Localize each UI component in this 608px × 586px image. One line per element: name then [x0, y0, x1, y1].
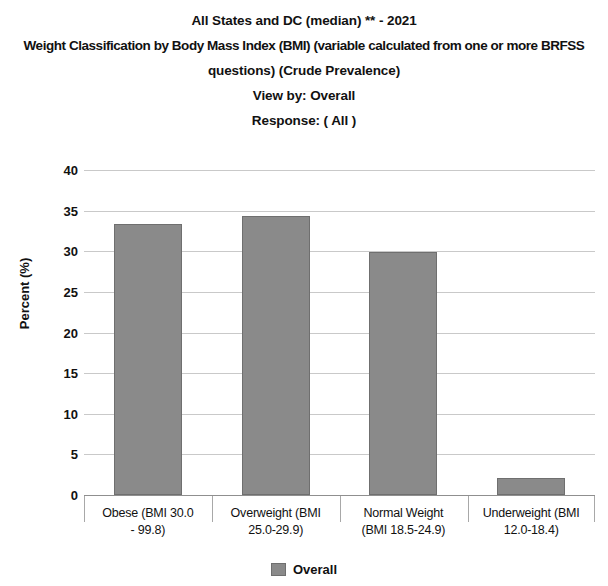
- legend-swatch-icon: [271, 563, 286, 576]
- category-label-line: Underweight (BMI: [467, 505, 595, 522]
- y-axis-tick-label: 0: [30, 488, 78, 503]
- y-axis-tick-label: 40: [30, 163, 78, 178]
- category-label: Underweight (BMI12.0-18.4): [467, 505, 595, 539]
- y-axis-tick-label: 10: [30, 406, 78, 421]
- bar-chart: All States and DC (median) ** - 2021 Wei…: [0, 0, 608, 586]
- y-axis-tick-label: 5: [30, 447, 78, 462]
- category-label: Normal Weight(BMI 18.5-24.9): [340, 505, 468, 539]
- category-label: Overweight (BMI25.0-29.9): [212, 505, 340, 539]
- legend-label: Overall: [293, 562, 337, 577]
- plot-area: Percent (%) 0510152025303540 Obese (BMI …: [0, 0, 608, 586]
- y-axis-tick-label: 35: [30, 203, 78, 218]
- category-label: Obese (BMI 30.0- 99.8): [84, 505, 212, 539]
- chart-legend: Overall: [0, 562, 608, 577]
- gridline: [84, 170, 595, 171]
- bar[interactable]: [114, 224, 182, 495]
- category-label-line: (BMI 18.5-24.9): [340, 522, 468, 539]
- y-axis-tick-label: 15: [30, 366, 78, 381]
- category-label-line: Overweight (BMI: [212, 505, 340, 522]
- gridline: [84, 211, 595, 212]
- category-label-line: Obese (BMI 30.0: [84, 505, 212, 522]
- bar[interactable]: [369, 252, 437, 495]
- category-label-line: 25.0-29.9): [212, 522, 340, 539]
- category-label-line: - 99.8): [84, 522, 212, 539]
- category-label-line: Normal Weight: [340, 505, 468, 522]
- category-label-line: 12.0-18.4): [467, 522, 595, 539]
- y-axis-tick-label: 20: [30, 325, 78, 340]
- y-axis-tick-label: 25: [30, 284, 78, 299]
- y-axis-tick-labels: 0510152025303540: [22, 0, 78, 586]
- bar[interactable]: [497, 478, 565, 495]
- bar[interactable]: [242, 216, 310, 496]
- y-axis-tick-label: 30: [30, 244, 78, 259]
